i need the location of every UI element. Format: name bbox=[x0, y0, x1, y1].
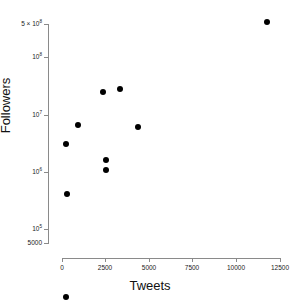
x-tick-label: 10000 bbox=[227, 265, 245, 272]
y-tick-mark bbox=[44, 57, 48, 58]
data-point bbox=[117, 86, 123, 92]
x-tick-label: 7500 bbox=[185, 265, 199, 272]
data-point bbox=[75, 122, 81, 128]
data-point bbox=[63, 141, 69, 147]
x-axis-line bbox=[62, 258, 281, 259]
x-tick-mark bbox=[280, 258, 281, 262]
y-tick-label: 5 × 108 bbox=[0, 21, 42, 28]
data-point bbox=[100, 89, 106, 95]
x-tick-label: 5000 bbox=[142, 265, 156, 272]
y-tick-label: 106 bbox=[0, 169, 42, 176]
scatter-plot-figure: 5 × 1081081071061055000 0250050007500100… bbox=[0, 0, 300, 305]
data-point bbox=[64, 191, 70, 197]
y-tick-mark bbox=[44, 115, 48, 116]
y-axis-line bbox=[48, 24, 49, 244]
x-tick-label: 12500 bbox=[271, 265, 289, 272]
y-tick-mark bbox=[44, 172, 48, 173]
x-tick-mark bbox=[62, 258, 63, 262]
data-point bbox=[135, 124, 141, 130]
data-point bbox=[264, 19, 270, 25]
x-tick-mark bbox=[192, 258, 193, 262]
x-tick-mark bbox=[149, 258, 150, 262]
data-point bbox=[103, 157, 109, 163]
y-tick-mark bbox=[44, 24, 48, 25]
x-tick-label: 0 bbox=[60, 265, 64, 272]
x-tick-label: 2500 bbox=[98, 265, 112, 272]
x-tick-mark bbox=[105, 258, 106, 262]
y-tick-label: 105 bbox=[0, 226, 42, 233]
y-tick-mark bbox=[44, 243, 48, 244]
x-tick-mark bbox=[236, 258, 237, 262]
y-tick-label: 108 bbox=[0, 54, 42, 61]
x-axis-label: Tweets bbox=[0, 278, 300, 293]
data-point bbox=[103, 167, 109, 173]
data-point bbox=[63, 294, 69, 300]
y-tick-mark bbox=[44, 229, 48, 230]
y-tick-label: 5000 bbox=[0, 240, 42, 247]
y-axis-label: Followers bbox=[0, 78, 13, 134]
